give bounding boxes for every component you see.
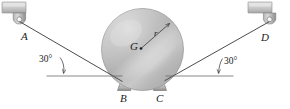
bracket-right-highlight bbox=[249, 3, 271, 6]
bracket-left-highlight bbox=[3, 3, 25, 6]
bracket-left bbox=[2, 2, 26, 24]
label-support-c: C bbox=[156, 93, 163, 104]
label-radius: r bbox=[154, 29, 158, 38]
sphere-shading bbox=[102, 9, 184, 91]
center-of-gravity-dot bbox=[140, 47, 143, 50]
pin-right-gloss bbox=[268, 18, 270, 20]
label-angle-right: 30° bbox=[224, 57, 237, 67]
bracket-right bbox=[248, 2, 276, 24]
label-anchor-d: D bbox=[261, 32, 269, 43]
pin-left-gloss bbox=[18, 18, 20, 20]
label-anchor-a: A bbox=[21, 31, 28, 42]
sphere bbox=[102, 9, 184, 91]
label-center-of-gravity: G bbox=[130, 41, 138, 52]
angle-leader-left bbox=[60, 58, 64, 74]
label-angle-left: 30° bbox=[39, 55, 52, 65]
statics-figure: A D B C G r 30° 30° bbox=[0, 0, 290, 109]
label-support-b: B bbox=[120, 93, 127, 104]
angle-leader-right bbox=[219, 59, 223, 74]
